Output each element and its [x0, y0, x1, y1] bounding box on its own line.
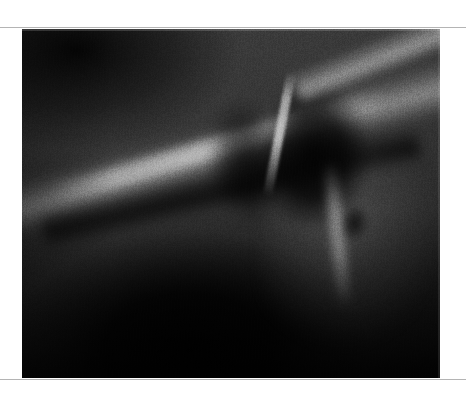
- document-page: [0, 0, 466, 400]
- horizontal-rule-bottom: [0, 379, 466, 380]
- radiograph-image: [22, 29, 440, 378]
- radiograph-figure: [22, 29, 440, 378]
- film-top-edge: [22, 29, 440, 31]
- film-right-edge: [438, 29, 440, 378]
- horizontal-rule-top: [0, 27, 466, 28]
- image-vignette: [22, 29, 440, 378]
